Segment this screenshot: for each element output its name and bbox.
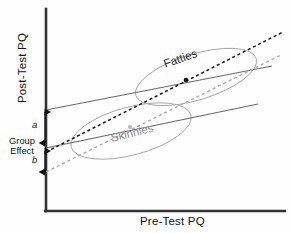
y-axis-label: Post-Test PQ [16,24,28,112]
regression-dashed-black [46,32,283,152]
adjusted-regression-lines [46,66,272,148]
plot-svg [0,0,290,233]
arrow-b-label: b [32,155,37,165]
centroid-marker-fatties [184,78,189,83]
axes-group [45,9,285,211]
arrow-a-label: a [32,120,37,130]
figure-canvas: Post-Test PQ Pre-Test PQ Group Effect a … [0,0,290,233]
adjusted-line-upper [46,66,272,110]
x-axis-label: Pre-Test PQ [140,215,205,227]
regression-dashed-gray [46,55,281,172]
